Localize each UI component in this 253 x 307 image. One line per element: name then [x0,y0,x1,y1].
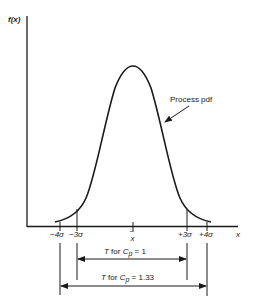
curve-label: Process pdf [170,95,213,104]
center-label-x: x [130,234,136,243]
span-label-cp133: T for Cp = 1.33 [101,273,155,284]
x-axis-label: x [235,230,241,239]
center-label-bar: – [129,227,134,234]
curve-pointer-arrow [165,106,189,122]
tick-label-minus3: −3σ [69,230,84,239]
process-capability-diagram: f(x) x Process pdf −4σ −3σ +3σ +4σ – x T… [0,0,253,307]
tick-label-plus4: +4σ [199,230,214,239]
tick-label-minus4: −4σ [50,230,65,239]
process-pdf-curve [55,66,211,222]
y-axis-label: f(x) [8,15,21,24]
tick-label-plus3: +3σ [178,230,193,239]
span-label-cp1: T for Cp = 1 [104,247,146,258]
